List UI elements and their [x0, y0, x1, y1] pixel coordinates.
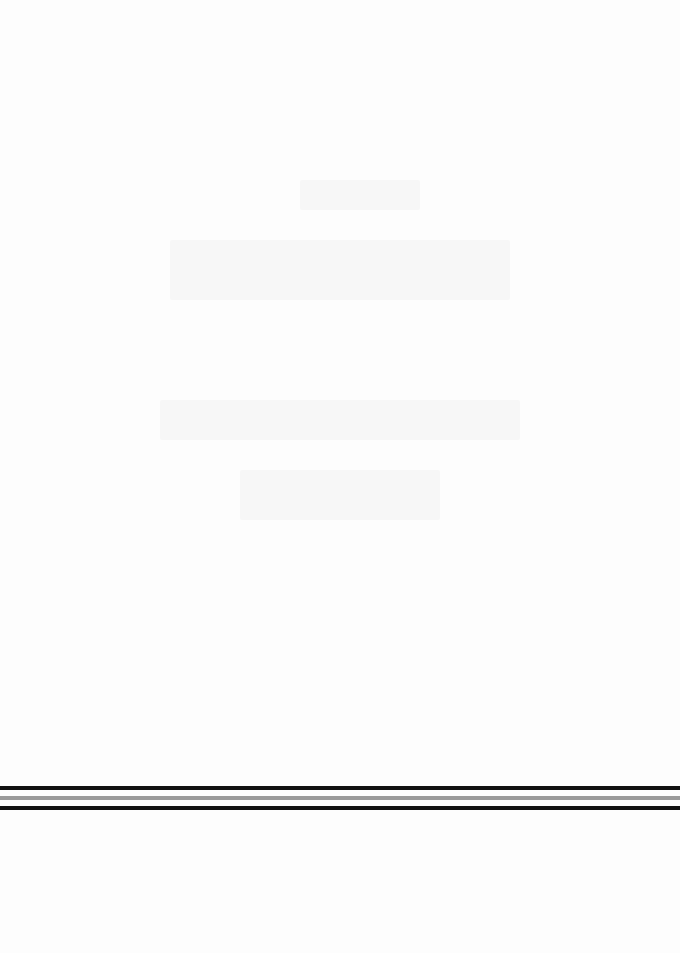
blank-page [0, 0, 680, 953]
show-through-subtitle [300, 180, 420, 210]
show-through-block-2 [240, 470, 440, 520]
middle-gray-rule [0, 796, 680, 800]
show-through-title [170, 240, 510, 300]
show-through-block [160, 400, 520, 440]
top-black-rule [0, 786, 680, 790]
bottom-black-rule [0, 806, 680, 810]
